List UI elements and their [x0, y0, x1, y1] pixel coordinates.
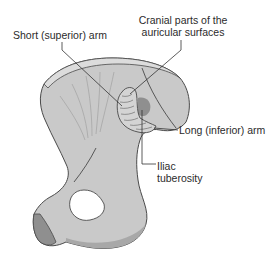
label-cranial-auricular-surfaces: Cranial parts of the auricular surfaces [133, 14, 233, 38]
label-text: Long (inferior) arm [179, 124, 265, 136]
label-text: Short (superior) arm [13, 29, 107, 41]
label-long-inferior-arm: Long (inferior) arm [179, 124, 265, 136]
label-text-line1: Iliac [157, 160, 203, 172]
ilium-bone [33, 58, 189, 249]
label-text-line1: Cranial parts of the [133, 14, 233, 26]
label-text-line2: tuberosity [157, 172, 203, 184]
label-short-superior-arm: Short (superior) arm [13, 29, 107, 41]
label-iliac-tuberosity: Iliac tuberosity [157, 160, 203, 184]
anatomy-figure: Short (superior) arm Cranial parts of th… [0, 0, 280, 258]
label-text-line2: auricular surfaces [133, 26, 233, 38]
